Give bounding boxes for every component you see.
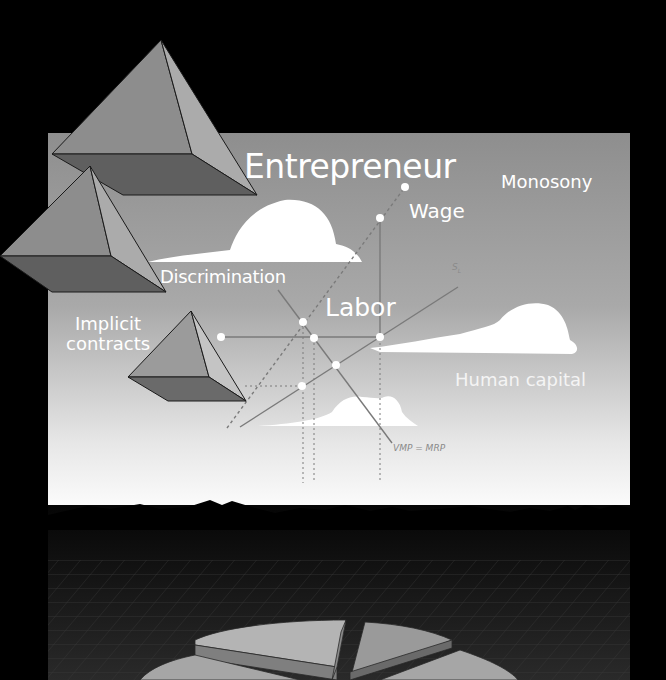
label-human-capital: Human capital <box>455 371 586 389</box>
label-implicit-contracts: Implicit contracts <box>66 314 150 354</box>
label-wage: Wage <box>409 201 465 221</box>
label-implicit-line1: Implicit <box>66 314 150 334</box>
label-discrimination: Discrimination <box>160 268 286 286</box>
label-entrepreneur: Entrepreneur <box>244 150 456 183</box>
pyramid-large <box>52 40 257 195</box>
label-supply-curve: SL <box>452 263 461 274</box>
supply-curve-subscript: L <box>458 267 461 274</box>
label-labor: Labor <box>325 295 396 320</box>
label-monopsony: Monosony <box>501 173 592 191</box>
label-vmp-mrp: VMP = MRP <box>393 444 445 453</box>
label-implicit-line2: contracts <box>66 334 150 354</box>
